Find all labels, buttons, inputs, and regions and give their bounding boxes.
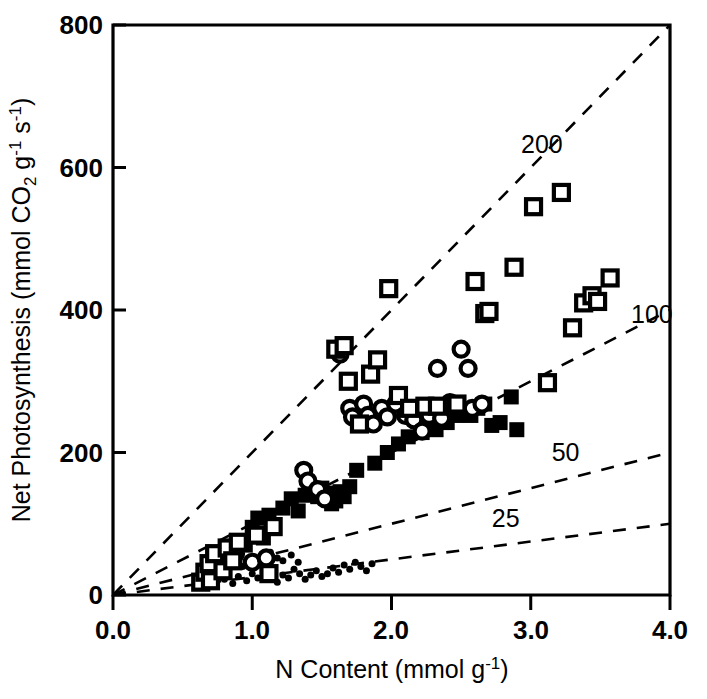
data-point-dot xyxy=(307,572,314,579)
data-point-open-square xyxy=(370,352,385,367)
svg-text:N Content (mmol g-1): N Content (mmol g-1) xyxy=(275,654,508,683)
reference-line-label-25: 25 xyxy=(492,504,520,532)
data-point-dot xyxy=(295,559,302,566)
data-point-dot xyxy=(346,566,353,573)
reference-line-labels-group: 2001005025 xyxy=(492,130,673,531)
data-point-filled-square xyxy=(509,422,524,437)
data-point-open-square xyxy=(507,260,522,275)
data-point-dot xyxy=(243,577,250,584)
data-point-open-circle xyxy=(415,424,430,439)
y-tick-label-400: 400 xyxy=(60,295,103,325)
data-point-filled-square xyxy=(493,415,508,430)
data-point-dot xyxy=(352,559,359,566)
x-tick-label-1: 1.0 xyxy=(234,615,270,645)
x-axis-title-main: N Content (mmol xyxy=(275,655,464,683)
data-point-open-square xyxy=(603,270,618,285)
data-point-open-square xyxy=(481,304,496,319)
data-point-open-square xyxy=(449,397,464,412)
data-point-open-square xyxy=(540,375,555,390)
y-axis-title-sub-co2: 2 xyxy=(21,177,40,186)
y-axis-title-part4: ) xyxy=(7,98,35,106)
data-point-open-circle xyxy=(259,550,274,565)
reference-line-label-50: 50 xyxy=(552,438,580,466)
data-point-open-circle xyxy=(475,397,490,412)
y-tick-label-600: 600 xyxy=(60,153,103,183)
series-open-squares xyxy=(193,185,617,590)
data-point-open-square xyxy=(430,399,445,414)
data-point-open-square xyxy=(526,199,541,214)
data-point-open-square xyxy=(225,553,240,568)
data-point-dot xyxy=(324,570,331,577)
data-point-dot xyxy=(296,570,303,577)
data-point-open-circle xyxy=(454,342,469,357)
x-tick-label-4: 4.0 xyxy=(652,615,688,645)
y-axis-title: Net Photosynthesis (mmol CO2 g-1 s-1) xyxy=(6,98,40,523)
x-axis-title-symbol: g xyxy=(464,655,485,683)
data-point-dot xyxy=(291,566,298,573)
data-point-open-square xyxy=(590,294,605,309)
data-point-open-square xyxy=(565,320,580,335)
svg-text:Net Photosynthesis (mmol CO2 g: Net Photosynthesis (mmol CO2 g-1 s-1) xyxy=(6,98,40,523)
x-tick-label-0: 0.0 xyxy=(95,615,131,645)
data-point-dot xyxy=(357,563,364,570)
x-axis-ticks xyxy=(113,595,670,610)
scatter-plot-canvas: Net Photosynthesis (mmol CO2 g-1 s-1) N … xyxy=(0,0,707,699)
data-point-dot xyxy=(229,580,236,587)
data-point-open-square xyxy=(231,535,246,550)
data-point-dot xyxy=(335,569,342,576)
data-point-open-circle xyxy=(461,361,476,376)
y-tick-label-800: 800 xyxy=(60,10,103,40)
data-point-dot xyxy=(279,557,286,564)
data-point-dot xyxy=(313,567,320,574)
x-axis-tick-labels: 0.0 1.0 2.0 3.0 4.0 xyxy=(95,615,688,645)
data-point-dot xyxy=(235,573,242,580)
data-point-open-square xyxy=(337,338,352,353)
x-tick-label-2: 2.0 xyxy=(373,615,409,645)
x-axis-title: N Content (mmol g-1) xyxy=(275,654,508,683)
data-point-filled-square xyxy=(342,479,357,494)
data-point-dot xyxy=(302,576,309,583)
data-point-open-square xyxy=(468,274,483,289)
data-point-open-square xyxy=(341,374,356,389)
data-point-open-square xyxy=(266,519,281,534)
y-axis-title-sup-s: -1 xyxy=(6,106,25,121)
data-point-dot xyxy=(363,567,370,574)
x-tick-label-3: 3.0 xyxy=(513,615,549,645)
data-point-dot xyxy=(330,564,337,571)
data-point-filled-square xyxy=(504,389,519,404)
data-point-open-square xyxy=(402,401,417,416)
y-axis-tick-labels: 0 200 400 600 800 xyxy=(60,10,103,610)
data-point-open-circle xyxy=(430,361,445,376)
y-axis-title-part2: g xyxy=(7,156,35,177)
data-point-filled-square xyxy=(291,503,306,518)
x-axis-title-exp: -1 xyxy=(485,654,500,673)
data-point-open-square xyxy=(352,417,367,432)
y-tick-label-0: 0 xyxy=(89,580,103,610)
data-point-dot xyxy=(288,552,295,559)
data-point-open-square xyxy=(249,528,264,543)
y-tick-label-200: 200 xyxy=(60,438,103,468)
data-point-dot xyxy=(369,560,376,567)
data-point-open-square xyxy=(261,566,276,581)
x-axis-title-close: ) xyxy=(500,655,508,683)
chart-figure: Net Photosynthesis (mmol CO2 g-1 s-1) N … xyxy=(0,0,707,699)
data-point-open-square xyxy=(381,281,396,296)
y-axis-title-sup-g: -1 xyxy=(6,141,25,156)
reference-line-label-100: 100 xyxy=(631,300,673,328)
y-axis-title-part1: Net Photosynthesis (mmol CO xyxy=(7,186,35,522)
data-point-dot xyxy=(285,574,292,581)
data-point-dot xyxy=(341,562,348,569)
data-point-filled-square xyxy=(349,463,364,478)
data-point-open-circle xyxy=(317,491,332,506)
reference-line-label-200: 200 xyxy=(521,130,563,158)
y-axis-ticks xyxy=(113,25,126,595)
data-point-open-square xyxy=(554,185,569,200)
y-axis-title-part3: s xyxy=(7,121,35,140)
